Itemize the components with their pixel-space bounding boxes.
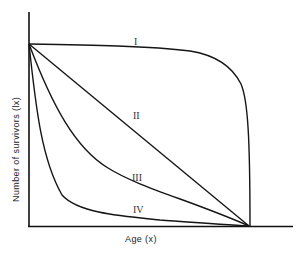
x-axis-label: Age (x) bbox=[125, 234, 157, 244]
survivorship-chart: I II III IV Age (x) Number of survivors … bbox=[0, 0, 307, 253]
curve-ii-label: II bbox=[133, 110, 140, 121]
y-axis-label: Number of survivors (lx) bbox=[11, 97, 21, 202]
curve-iv-label: IV bbox=[133, 204, 144, 215]
curve-iii-label: III bbox=[132, 172, 142, 183]
curve-i-label: I bbox=[134, 36, 137, 47]
curve-ii bbox=[29, 44, 249, 226]
